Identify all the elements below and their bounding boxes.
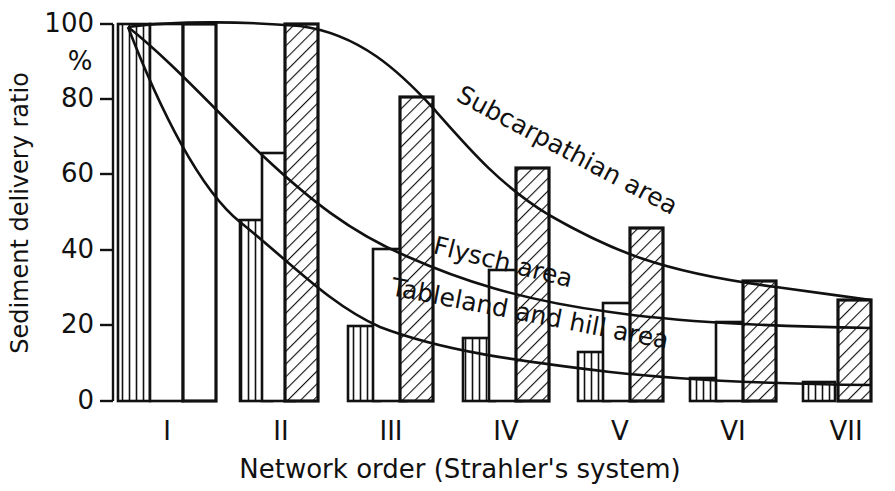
bar-group-I <box>118 24 216 401</box>
y-tick-label-80: 80 <box>61 83 94 113</box>
chart-figure: 100 80 60 40 20 0 % Sediment delivery ra… <box>0 0 895 491</box>
y-tick-label-40: 40 <box>61 234 94 264</box>
bar-subcarpathian-II <box>285 24 318 401</box>
x-tick-label-VI: VI <box>720 416 745 446</box>
bar-flysch-I <box>150 24 183 401</box>
x-tick-label-V: V <box>611 416 629 446</box>
y-tick-label-0: 0 <box>77 385 94 415</box>
x-tick-label-IV: IV <box>493 416 519 446</box>
x-tick-label-VII: VII <box>829 416 862 446</box>
y-axis-unit: % <box>68 46 93 76</box>
x-tick-label-I: I <box>163 416 171 446</box>
bar-subcarpathian-III <box>400 97 433 401</box>
bar-tableland-I <box>118 24 150 401</box>
sediment-delivery-ratio-chart: 100 80 60 40 20 0 % Sediment delivery ra… <box>0 0 895 491</box>
x-tick-label-II: II <box>273 416 288 446</box>
y-tick-label-100: 100 <box>44 8 94 38</box>
x-axis-title: Network order (Strahler's system) <box>239 454 680 484</box>
y-tick-label-60: 60 <box>61 158 94 188</box>
y-axis-title: Sediment delivery ratio <box>6 72 34 354</box>
x-tick-label-III: III <box>379 416 402 446</box>
y-tick-label-20: 20 <box>61 309 94 339</box>
